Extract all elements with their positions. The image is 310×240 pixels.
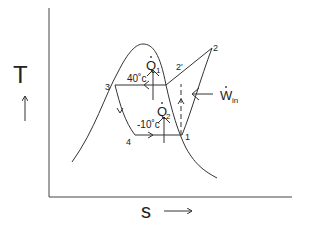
- state-4-label: 4: [126, 137, 131, 147]
- state-2-label: 2: [213, 43, 218, 53]
- compression-line: [182, 48, 212, 135]
- x-axis-label: s: [141, 200, 151, 222]
- state-3-label: 3: [105, 82, 110, 92]
- evaporator-temp-label: -10˚c: [137, 119, 160, 130]
- saturation-dome: [72, 44, 217, 178]
- condenser-temp-label: 40˚c: [127, 73, 146, 84]
- q1-label: Q: [146, 58, 156, 73]
- state-2prime-label: 2': [176, 62, 183, 72]
- work-dot: [225, 86, 227, 88]
- q2-subscript: 2: [166, 112, 171, 121]
- q2-dot: [161, 102, 163, 104]
- q1-subscript: 1: [156, 66, 161, 75]
- q1-dot: [150, 56, 152, 58]
- state-1-label: 1: [185, 132, 190, 142]
- ts-diagram: T s 3 4 1 2 2' 40˚c -10˚c Q 1 Q 2 W in: [0, 0, 310, 240]
- y-axis-label: T: [13, 61, 28, 88]
- work-subscript: in: [232, 96, 238, 105]
